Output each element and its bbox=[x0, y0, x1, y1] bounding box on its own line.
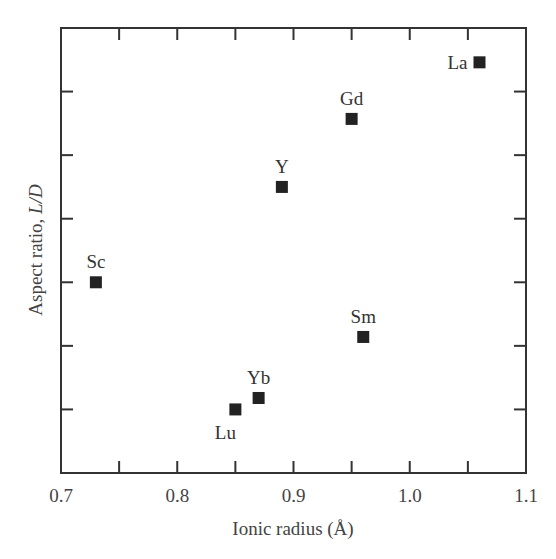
point-label-yb: Yb bbox=[247, 367, 270, 388]
axis-ticks bbox=[61, 28, 526, 473]
data-point-la bbox=[474, 56, 486, 68]
y-axis-label-prefix: Aspect ratio, bbox=[25, 214, 46, 316]
y-axis-label-italic: L/D bbox=[25, 184, 46, 215]
x-tick-label: 0.9 bbox=[282, 485, 306, 506]
x-tick-label: 0.8 bbox=[165, 485, 189, 506]
point-label-y: Y bbox=[275, 156, 289, 177]
scatter-chart: 0.70.80.91.01.1 ScLuYbYGdSmLa Ionic radi… bbox=[0, 0, 556, 559]
point-label-gd: Gd bbox=[340, 88, 364, 109]
data-point-gd bbox=[346, 113, 358, 125]
x-tick-label: 1.0 bbox=[398, 485, 422, 506]
data-point-y bbox=[276, 181, 288, 193]
x-axis-label: Ionic radius (Å) bbox=[232, 518, 353, 540]
data-point-yb bbox=[253, 392, 265, 404]
data-point-sm bbox=[357, 331, 369, 343]
data-points: ScLuYbYGdSmLa bbox=[86, 52, 485, 443]
point-label-sc: Sc bbox=[86, 251, 105, 272]
data-point-lu bbox=[229, 403, 241, 415]
point-label-lu: Lu bbox=[215, 422, 237, 443]
x-tick-labels: 0.70.80.91.01.1 bbox=[49, 485, 538, 506]
data-point-sc bbox=[90, 276, 102, 288]
y-axis-label: Aspect ratio, L/D bbox=[25, 184, 46, 316]
point-label-sm: Sm bbox=[351, 306, 377, 327]
point-label-la: La bbox=[447, 52, 468, 73]
x-tick-label: 0.7 bbox=[49, 485, 73, 506]
plot-frame bbox=[61, 28, 526, 473]
x-tick-label: 1.1 bbox=[514, 485, 538, 506]
